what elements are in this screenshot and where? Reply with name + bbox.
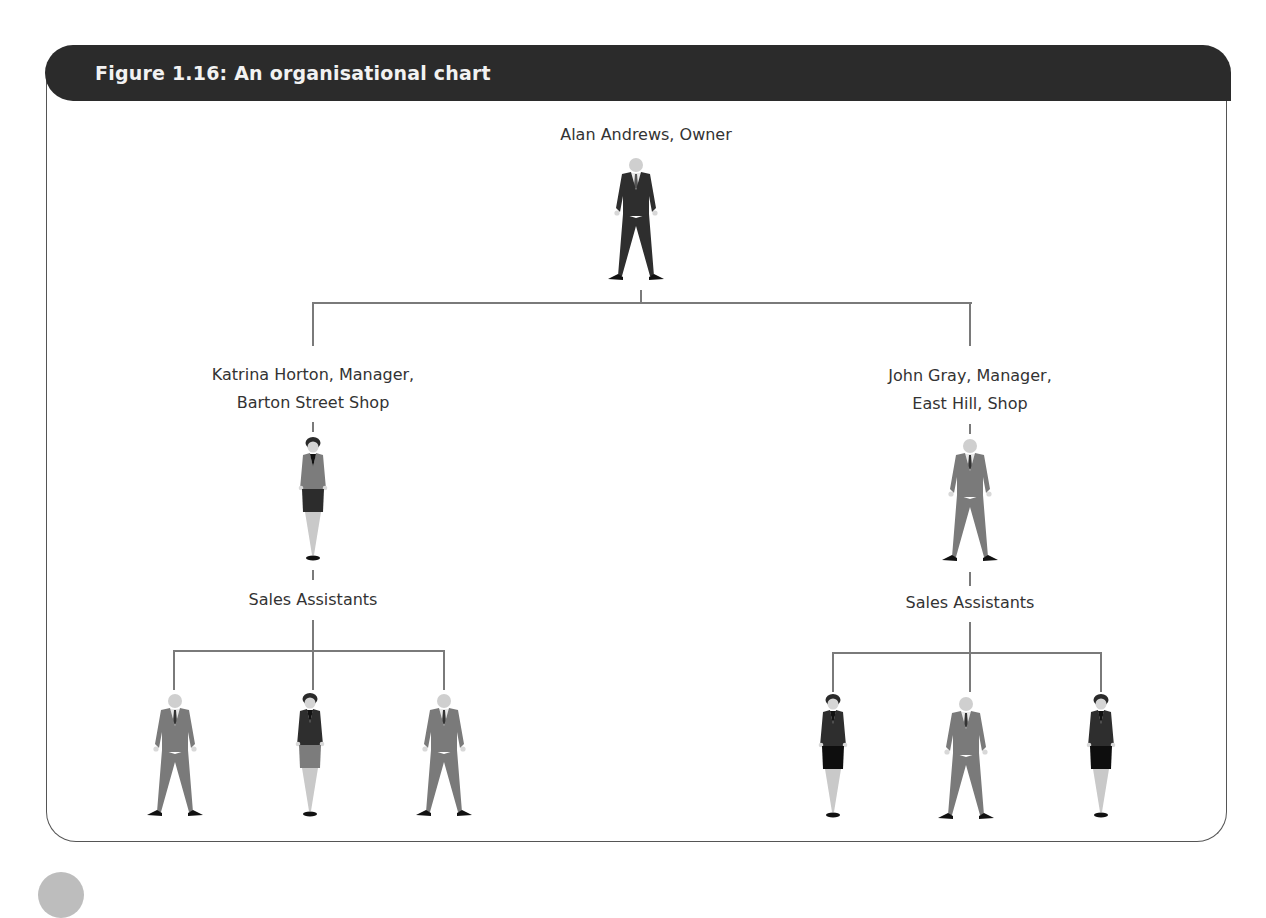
page-decoration-circle [38,872,84,918]
connector-right-staff-1 [832,652,834,692]
connector-left-manager-to-team [312,570,314,580]
connector-left-manager-stem [312,422,314,432]
connector-left-branch [312,302,314,346]
staff-left-2-figure-icon [296,693,324,819]
connector-left-staff-1 [173,650,175,690]
connector-right-branch [969,302,971,346]
manager-left-label: Katrina Horton, Manager, Barton Street S… [212,361,414,417]
figure-header: Figure 1.16: An organisational chart [45,45,1231,101]
staff-right-2-figure-icon [944,695,988,821]
owner-figure-icon [614,156,658,282]
staff-left-3-figure-icon [422,692,466,818]
connector-right-staff-2 [969,652,971,692]
connector-left-staff-2 [312,650,314,690]
manager-right-figure-icon [948,437,992,563]
manager-right-name: John Gray, Manager, [888,362,1052,390]
connector-left-team-horizontal [173,650,445,652]
manager-left-name: Katrina Horton, Manager, [212,361,414,389]
owner-label: Alan Andrews, Owner [560,121,732,149]
connector-right-team-stem [969,622,971,653]
connector-left-team-stem [312,620,314,651]
staff-right-1-figure-icon [819,694,847,820]
connector-right-staff-3 [1100,652,1102,692]
staff-left-1-figure-icon [153,692,197,818]
team-right-label: Sales Assistants [906,589,1035,617]
team-left-label: Sales Assistants [249,586,378,614]
connector-right-manager-stem [969,424,971,434]
manager-right-label: John Gray, Manager, East Hill, Shop [888,362,1052,418]
figure-title: Figure 1.16: An organisational chart [95,45,491,101]
manager-left-figure-icon [299,437,327,563]
connector-left-staff-3 [443,650,445,690]
manager-left-shop: Barton Street Shop [212,389,414,417]
manager-right-shop: East Hill, Shop [888,390,1052,418]
connector-right-manager-to-team [969,572,971,586]
connector-main-horizontal [312,302,972,304]
connector-right-team-horizontal [832,652,1102,654]
staff-right-3-figure-icon [1087,694,1115,820]
